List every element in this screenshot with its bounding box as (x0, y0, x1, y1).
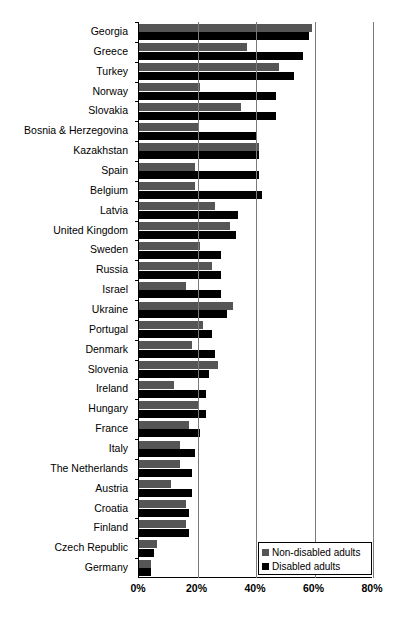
bar-disabled (139, 370, 209, 378)
bar-disabled (139, 151, 259, 159)
bar-disabled (139, 489, 192, 497)
gridline (315, 22, 316, 578)
y-axis-category-label: Czech Republic (54, 542, 128, 553)
bar-non-disabled (139, 520, 186, 528)
bar-non-disabled (139, 560, 151, 568)
x-axis-tick-label: 80% (352, 582, 392, 594)
bar-disabled (139, 211, 238, 219)
bar-disabled (139, 410, 206, 418)
bar-disabled (139, 171, 259, 179)
y-axis-category-label: Georgia (91, 26, 128, 37)
bar-disabled (139, 290, 221, 298)
bar-non-disabled (139, 103, 241, 111)
bar-non-disabled (139, 242, 200, 250)
y-axis-category-label: Spain (101, 165, 128, 176)
bar-disabled (139, 390, 206, 398)
legend-label: Non-disabled adults (272, 547, 360, 558)
y-axis-category-label: United Kingdom (53, 225, 128, 236)
y-axis-category-label: Slovenia (88, 364, 128, 375)
bar-non-disabled (139, 182, 195, 190)
bar-disabled (139, 449, 195, 457)
gridline (373, 22, 374, 578)
legend-swatch-icon (262, 563, 269, 570)
bar-disabled (139, 330, 212, 338)
bar-disabled (139, 568, 151, 576)
bar-non-disabled (139, 500, 186, 508)
bar-disabled (139, 429, 200, 437)
y-axis-category-label: Russia (96, 264, 128, 275)
bar-non-disabled (139, 262, 212, 270)
bar-disabled (139, 509, 189, 517)
y-axis-category-label: Bosnia & Herzegovina (24, 125, 128, 136)
bar-non-disabled (139, 282, 186, 290)
bar-non-disabled (139, 361, 218, 369)
x-axis-tick-label: 60% (294, 582, 334, 594)
bar-non-disabled (139, 540, 157, 548)
y-axis-category-label: Latvia (100, 205, 128, 216)
y-axis-category-label: Ireland (96, 383, 128, 394)
bar-non-disabled (139, 381, 174, 389)
legend-swatch-icon (262, 549, 269, 556)
bar-non-disabled (139, 163, 195, 171)
bar-non-disabled (139, 421, 189, 429)
y-axis-labels: GeorgiaGreeceTurkeyNorwaySlovakiaBosnia … (0, 22, 134, 578)
y-axis-category-label: Hungary (88, 403, 128, 414)
y-axis-category-label: Denmark (85, 344, 128, 355)
bar-non-disabled (139, 441, 180, 449)
y-axis-category-label: The Netherlands (50, 463, 128, 474)
bar-disabled (139, 271, 221, 279)
bar-non-disabled (139, 202, 215, 210)
bar-non-disabled (139, 401, 198, 409)
y-axis-category-label: Ukraine (92, 304, 128, 315)
y-axis-category-label: Croatia (94, 503, 128, 514)
y-axis-category-label: France (95, 423, 128, 434)
bar-chart: GeorgiaGreeceTurkeyNorwaySlovakiaBosnia … (0, 0, 407, 631)
bar-disabled (139, 231, 236, 239)
bar-disabled (139, 72, 294, 80)
bar-disabled (139, 32, 309, 40)
y-axis-category-label: Kazakhstan (73, 145, 128, 156)
bar-non-disabled (139, 480, 171, 488)
y-axis-category-label: Finland (94, 522, 128, 533)
bar-non-disabled (139, 321, 203, 329)
gridline (198, 22, 199, 578)
x-axis-tick-label: 0% (118, 582, 158, 594)
bar-non-disabled (139, 123, 198, 131)
bar-disabled (139, 529, 189, 537)
legend-label: Disabled adults (272, 561, 340, 572)
bar-non-disabled (139, 143, 259, 151)
bar-non-disabled (139, 302, 233, 310)
bar-disabled (139, 350, 215, 358)
y-axis-category-label: Belgium (90, 185, 128, 196)
y-axis-category-label: Italy (109, 443, 128, 454)
bar-disabled (139, 52, 303, 60)
y-axis-category-label: Germany (85, 562, 128, 573)
chart-legend: Non-disabled adultsDisabled adults (258, 542, 372, 575)
y-axis-category-label: Portugal (89, 324, 128, 335)
bar-disabled (139, 191, 262, 199)
legend-item: Disabled adults (262, 559, 368, 573)
y-axis-category-label: Sweden (90, 244, 128, 255)
bar-disabled (139, 549, 154, 557)
gridline (256, 22, 257, 578)
bar-non-disabled (139, 83, 200, 91)
y-axis-category-label: Slovakia (88, 105, 128, 116)
y-axis-category-label: Israel (102, 284, 128, 295)
x-axis-tick-label: 40% (235, 582, 275, 594)
bar-non-disabled (139, 460, 180, 468)
bar-non-disabled (139, 43, 247, 51)
y-axis-category-label: Norway (92, 86, 128, 97)
bar-disabled (139, 310, 227, 318)
bar-non-disabled (139, 222, 230, 230)
y-axis-category-label: Austria (95, 483, 128, 494)
x-axis-tick-label: 20% (177, 582, 217, 594)
y-axis-category-label: Greece (94, 46, 128, 57)
bar-non-disabled (139, 63, 279, 71)
bar-non-disabled (139, 24, 312, 32)
bar-disabled (139, 469, 192, 477)
bar-non-disabled (139, 341, 192, 349)
legend-item: Non-disabled adults (262, 545, 368, 559)
bar-disabled (139, 251, 221, 259)
plot-area (138, 22, 372, 578)
y-axis-category-label: Turkey (96, 66, 128, 77)
